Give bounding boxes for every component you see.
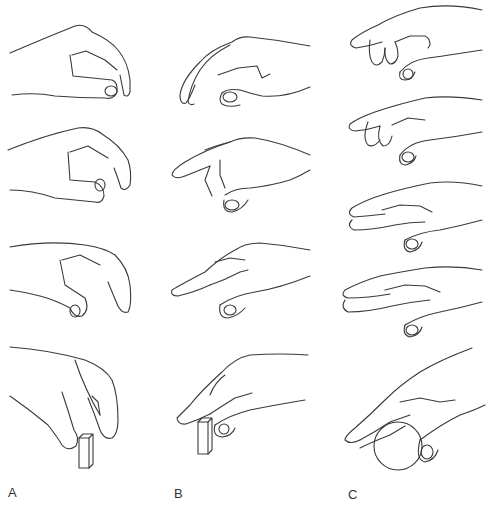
panel-b3 xyxy=(172,243,310,318)
hand-grasp-diagram xyxy=(0,0,492,507)
panel-a4 xyxy=(10,347,118,468)
panel-a1 xyxy=(10,25,130,98)
panel-c1 xyxy=(351,6,482,80)
ball xyxy=(374,422,422,470)
panel-c3 xyxy=(349,182,482,252)
panel-b1 xyxy=(180,37,310,106)
panel-c2 xyxy=(349,97,482,165)
panel-a2 xyxy=(8,128,131,203)
panel-c5 xyxy=(345,348,485,470)
panel-a3 xyxy=(10,243,131,317)
column-label-b: B xyxy=(174,486,183,501)
panel-b2 xyxy=(172,138,310,212)
panel-b4 xyxy=(177,354,308,454)
column-label-c: C xyxy=(348,487,357,502)
column-label-a: A xyxy=(8,485,17,500)
panel-c4 xyxy=(343,267,482,337)
